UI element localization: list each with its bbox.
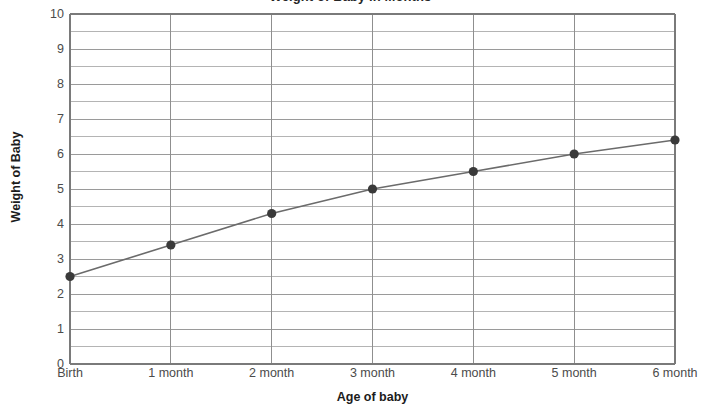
data-point: [570, 149, 579, 158]
x-axis-tick-label: 3 month: [318, 366, 428, 380]
x-axis-tick-label: 2 month: [217, 366, 327, 380]
x-axis-title: Age of baby: [70, 390, 675, 404]
line-chart: Weight of Baby in Months Weight of Baby …: [0, 0, 701, 413]
data-point: [469, 167, 478, 176]
data-point: [670, 135, 679, 144]
data-point: [267, 209, 276, 218]
x-axis-tick-label: Birth: [15, 366, 125, 380]
x-axis-tick-labels: Birth1 month2 month3 month4 month5 month…: [0, 366, 701, 388]
data-point: [166, 240, 175, 249]
x-axis-tick-label: 4 month: [418, 366, 528, 380]
x-axis-tick-label: 6 month: [620, 366, 701, 380]
data-point: [368, 184, 377, 193]
data-point: [65, 272, 74, 281]
x-axis-tick-label: 5 month: [519, 366, 629, 380]
x-axis-tick-label: 1 month: [116, 366, 226, 380]
plot-area: [0, 0, 701, 413]
